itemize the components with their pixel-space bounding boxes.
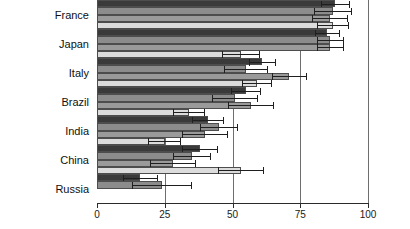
bar-france-s1 xyxy=(97,0,335,7)
error-bar-cap-left xyxy=(132,182,133,189)
bar-group-india xyxy=(97,116,368,145)
bar-france-s4 xyxy=(97,22,333,29)
error-bar-france-s1 xyxy=(321,4,351,5)
x-tick-label-50: 50 xyxy=(227,209,238,220)
error-bar-china-s4 xyxy=(218,170,264,171)
error-bar-cap-right xyxy=(217,146,218,153)
error-bar-italy-s4 xyxy=(242,83,272,84)
category-label-france: France xyxy=(55,9,89,21)
bar-italy-s4 xyxy=(97,80,257,87)
error-bar-brazil-s2 xyxy=(212,98,258,99)
error-bar-cap-right xyxy=(275,59,276,66)
error-bar-italy-s2 xyxy=(224,69,267,70)
error-bar-cap-right xyxy=(260,88,261,95)
error-bar-japan-s2 xyxy=(317,40,344,41)
error-bar-italy-s3 xyxy=(272,76,307,77)
error-bar-cap-right xyxy=(306,73,307,80)
bar-italy-s1 xyxy=(97,58,262,65)
error-bar-china-s2 xyxy=(173,156,211,157)
error-bar-cap-right xyxy=(223,117,224,124)
error-bar-cap-right xyxy=(273,102,274,109)
error-bar-india-s1 xyxy=(192,120,225,121)
x-tick-mark-75 xyxy=(300,203,301,208)
error-bar-cap-right xyxy=(257,95,258,102)
bar-italy-s3 xyxy=(97,73,289,80)
error-bar-russia-s1 xyxy=(123,178,158,179)
bar-france-s3 xyxy=(97,15,330,22)
category-label-japan: Japan xyxy=(59,38,89,50)
error-bar-cap-right xyxy=(343,44,344,51)
error-bar-cap-right xyxy=(343,37,344,44)
x-tick-mark-0 xyxy=(97,203,98,208)
error-bar-cap-left xyxy=(272,73,273,80)
bar-group-brazil xyxy=(97,87,368,116)
bar-group-russia xyxy=(97,174,368,203)
x-tick-mark-25 xyxy=(165,203,166,208)
bar-group-italy xyxy=(97,58,368,87)
error-bar-france-s4 xyxy=(317,25,350,26)
error-bar-cap-right xyxy=(227,131,228,138)
bar-brazil-s1 xyxy=(97,87,246,94)
error-bar-brazil-s4 xyxy=(173,112,206,113)
error-bar-cap-right xyxy=(349,1,350,8)
bar-group-france xyxy=(97,0,368,29)
error-bar-india-s3 xyxy=(182,134,228,135)
error-bar-cap-left xyxy=(249,59,250,66)
error-bar-india-s4 xyxy=(148,141,181,142)
error-bar-cap-right xyxy=(210,153,211,160)
error-bar-japan-s3 xyxy=(317,47,344,48)
bar-france-s2 xyxy=(97,7,333,14)
bar-japan-s2 xyxy=(97,36,330,43)
x-tick-mark-100 xyxy=(368,203,369,208)
error-bar-cap-left xyxy=(182,131,183,138)
error-bar-cap-right xyxy=(347,15,348,22)
error-bar-france-s3 xyxy=(312,18,347,19)
gridline-100 xyxy=(368,0,369,203)
error-bar-cap-right xyxy=(339,30,340,37)
error-bar-china-s1 xyxy=(182,149,217,150)
category-label-china: China xyxy=(60,154,89,166)
x-tick-mark-50 xyxy=(233,203,234,208)
error-bar-japan-s4 xyxy=(222,54,260,55)
error-bar-china-s3 xyxy=(150,163,196,164)
error-bar-brazil-s1 xyxy=(231,91,261,92)
bar-japan-s1 xyxy=(97,29,327,36)
bar-group-china xyxy=(97,145,368,174)
error-bar-cap-left xyxy=(317,44,318,51)
x-tick-label-0: 0 xyxy=(94,209,100,220)
category-label-india: India xyxy=(65,125,89,137)
error-bar-brazil-s3 xyxy=(228,105,274,106)
bar-japan-s4 xyxy=(97,51,241,58)
error-bar-cap-left xyxy=(228,102,229,109)
error-bar-cap-right xyxy=(191,182,192,189)
error-bar-cap-right xyxy=(351,8,352,15)
bar-group-japan xyxy=(97,29,368,58)
error-bar-cap-left xyxy=(173,153,174,160)
category-label-italy: Italy xyxy=(69,67,89,79)
error-bar-cap-right xyxy=(237,124,238,131)
error-bar-france-s2 xyxy=(314,11,352,12)
error-bar-india-s2 xyxy=(200,127,238,128)
category-label-brazil: Brazil xyxy=(61,96,89,108)
category-label-russia: Russia xyxy=(55,183,89,195)
category-axis-labels: FranceJapanItalyBrazilIndiaChinaRussia xyxy=(0,0,89,203)
x-tick-label-25: 25 xyxy=(159,209,170,220)
x-tick-label-75: 75 xyxy=(295,209,306,220)
error-bar-japan-s1 xyxy=(315,33,339,34)
error-bar-italy-s1 xyxy=(249,62,276,63)
bar-chart: FranceJapanItalyBrazilIndiaChinaRussia 0… xyxy=(0,0,410,229)
x-tick-label-100: 100 xyxy=(360,209,377,220)
error-bar-russia-s2 xyxy=(132,185,192,186)
bar-japan-s3 xyxy=(97,44,330,51)
plot-area xyxy=(97,0,368,203)
